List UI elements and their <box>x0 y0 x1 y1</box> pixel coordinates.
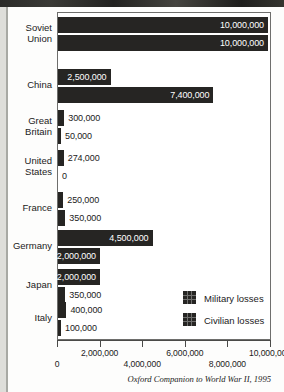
bar-group: 274,0000 <box>57 150 271 190</box>
legend-swatch-civilian-icon <box>183 313 196 326</box>
country-label: Germany <box>8 241 52 252</box>
bar-military <box>58 192 63 208</box>
x-axis-tick <box>57 340 58 347</box>
bar-row: Germany4,500,0002,000,000 <box>8 230 284 270</box>
bar-row: GreatBritain300,00050,000 <box>8 110 284 150</box>
bar-civilian: 7,400,000 <box>58 87 213 103</box>
bar-military <box>58 110 64 126</box>
legend-swatch-military-icon <box>183 291 196 304</box>
bar-military: 10,000,000 <box>58 17 268 33</box>
country-label: Italy <box>8 313 52 324</box>
legend-label-military: Military losses <box>204 293 264 304</box>
bar-group: 250,000350,000 <box>57 192 271 232</box>
bar-value-label: 0 <box>62 171 67 181</box>
x-axis-tick-label: 10,000,000 <box>249 348 284 358</box>
country-label-line2: States <box>8 167 52 178</box>
x-axis-tick <box>270 340 271 347</box>
figure-wwii-casualties: SovietUnion10,000,00010,000,000China2,50… <box>8 7 284 392</box>
x-axis-tick <box>100 340 101 347</box>
source-citation: Oxford Companion to World War II, 1995 <box>128 374 271 384</box>
bar-value-label: 10,000,000 <box>220 38 264 48</box>
x-axis-tick <box>227 340 228 347</box>
x-axis: 02,000,0004,000,0006,000,0008,000,00010,… <box>57 340 271 370</box>
bar-group: 2,500,0007,400,000 <box>57 69 271 109</box>
bar-row: China2,500,0007,400,000 <box>8 69 284 109</box>
country-label: Japan <box>8 280 52 291</box>
bar-value-label: 250,000 <box>67 195 99 205</box>
bar-value-label: 400,000 <box>70 305 102 315</box>
x-axis-tick-label: 2,000,000 <box>81 348 118 358</box>
bar-value-label: 300,000 <box>68 113 100 123</box>
country-label: China <box>8 80 52 91</box>
bar-civilian <box>58 128 61 144</box>
bar-value-label: 350,000 <box>69 290 101 300</box>
country-label: France <box>8 203 52 214</box>
x-axis-tick-label: 6,000,000 <box>166 348 203 358</box>
country-label: SovietUnion <box>8 23 52 44</box>
bar-civilian <box>58 287 65 303</box>
legend-label-civilian: Civilian losses <box>204 315 264 326</box>
country-label: UnitedStates <box>8 156 52 177</box>
bar-military: 4,500,000 <box>58 230 153 246</box>
bar-group: 300,00050,000 <box>57 110 271 150</box>
bar-value-label: 2,500,000 <box>67 72 106 82</box>
bar-row: SovietUnion10,000,00010,000,000 <box>8 17 284 57</box>
bar-row: France250,000350,000 <box>8 192 284 232</box>
bar-military <box>58 150 64 166</box>
bar-value-label: 2,000,000 <box>57 251 96 261</box>
bar-row: UnitedStates274,0000 <box>8 150 284 190</box>
bar-military: 2,000,000 <box>58 269 100 285</box>
x-axis-tick-label: 0 <box>55 359 60 369</box>
bar-value-label: 4,500,000 <box>109 233 148 243</box>
country-label: GreatBritain <box>8 116 52 137</box>
bar-value-label: 10,000,000 <box>220 20 264 30</box>
bar-civilian <box>58 320 61 336</box>
bar-group: 4,500,0002,000,000 <box>57 230 271 270</box>
bar-value-label: 274,000 <box>68 153 100 163</box>
x-axis-tick-label: 8,000,000 <box>209 359 246 369</box>
bar-civilian <box>58 210 65 226</box>
bar-value-label: 2,000,000 <box>57 272 96 282</box>
bar-civilian: 10,000,000 <box>58 35 268 51</box>
bar-military: 2,500,000 <box>58 69 111 85</box>
country-label-line2: Union <box>8 34 52 45</box>
bar-military <box>58 302 66 318</box>
x-axis-tick <box>142 340 143 347</box>
bar-value-label: 50,000 <box>65 131 92 141</box>
x-axis-line <box>57 340 271 341</box>
country-label-line2: Britain <box>8 127 52 138</box>
bar-group: 10,000,00010,000,000 <box>57 17 271 57</box>
x-axis-tick-label: 4,000,000 <box>124 359 161 369</box>
bar-value-label: 7,400,000 <box>170 90 209 100</box>
bar-value-label: 350,000 <box>69 213 101 223</box>
bar-value-label: 100,000 <box>65 323 97 333</box>
page-scan-top-band <box>0 0 284 7</box>
x-axis-tick <box>185 340 186 347</box>
bar-civilian: 2,000,000 <box>58 248 100 264</box>
